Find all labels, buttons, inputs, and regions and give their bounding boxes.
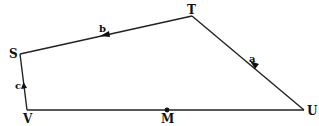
point-label-M: M bbox=[161, 112, 174, 126]
edge-UT bbox=[192, 16, 304, 110]
vertex-label-U: U bbox=[307, 104, 318, 118]
vertex-label-V: V bbox=[22, 112, 33, 126]
quadrilateral-diagram: T S V U M a b c bbox=[0, 0, 319, 126]
vertex-label-T: T bbox=[187, 3, 196, 17]
vector-label-b: b bbox=[99, 23, 106, 34]
vector-label-c: c bbox=[15, 80, 21, 91]
arrow-c-icon bbox=[21, 82, 27, 89]
vertex-label-S: S bbox=[9, 47, 18, 61]
vector-label-a: a bbox=[249, 53, 256, 64]
